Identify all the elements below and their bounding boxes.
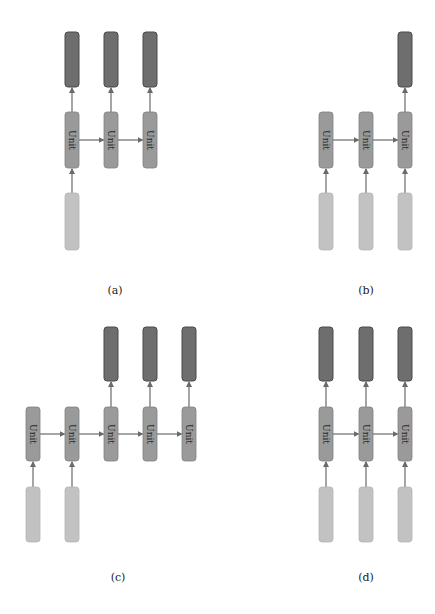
input-box — [398, 193, 412, 250]
unit-label: Unit — [145, 424, 155, 444]
unit-label: Unit — [145, 130, 155, 150]
input-box — [319, 487, 333, 542]
rnn-architecture-figure: UnitUnitUnitUnitUnitUnitUnitUnitUnitUnit… — [0, 0, 435, 614]
output-box — [143, 32, 157, 87]
panel-d: UnitUnitUnit — [319, 327, 412, 542]
unit-label: Unit — [321, 130, 331, 150]
panel-caption-b: (b) — [358, 284, 374, 297]
unit-label: Unit — [361, 130, 371, 150]
output-box — [398, 32, 412, 87]
input-box — [319, 193, 333, 250]
panel-b: UnitUnitUnit — [319, 32, 412, 250]
input-box — [359, 487, 373, 542]
input-box — [359, 193, 373, 250]
unit-label: Unit — [28, 424, 38, 444]
unit-label: Unit — [67, 130, 77, 150]
unit-label: Unit — [106, 130, 116, 150]
output-box — [143, 327, 157, 381]
panel-caption-c: (c) — [111, 571, 126, 584]
output-box — [398, 327, 412, 381]
unit-label: Unit — [184, 424, 194, 444]
unit-label: Unit — [400, 130, 410, 150]
panel-c: UnitUnitUnitUnitUnit — [26, 327, 196, 542]
output-box — [65, 32, 79, 87]
panel-caption-a: (a) — [107, 284, 122, 297]
output-box — [104, 32, 118, 87]
panel-a: UnitUnitUnit — [65, 32, 157, 250]
input-box — [65, 487, 79, 542]
input-box — [65, 193, 79, 250]
unit-label: Unit — [400, 424, 410, 444]
unit-label: Unit — [106, 424, 116, 444]
unit-label: Unit — [321, 424, 331, 444]
input-box — [26, 487, 40, 542]
output-box — [182, 327, 196, 381]
panel-caption-d: (d) — [358, 571, 374, 584]
diagram-canvas: UnitUnitUnitUnitUnitUnitUnitUnitUnitUnit… — [0, 0, 435, 614]
output-box — [104, 327, 118, 381]
unit-label: Unit — [67, 424, 77, 444]
output-box — [319, 327, 333, 381]
unit-label: Unit — [361, 424, 371, 444]
output-box — [359, 327, 373, 381]
input-box — [398, 487, 412, 542]
